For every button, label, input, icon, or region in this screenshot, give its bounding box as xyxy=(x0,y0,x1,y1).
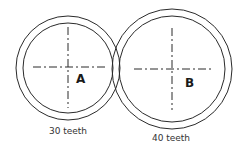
gear-a-caption: 30 teeth xyxy=(49,127,87,136)
gear-b-label: B xyxy=(185,77,194,89)
gear-a xyxy=(16,16,120,120)
gear-a-label: A xyxy=(76,73,85,85)
gear-b xyxy=(112,9,232,129)
gear-a-inner-circle xyxy=(23,23,113,113)
gear-b-caption: 40 teeth xyxy=(152,134,190,143)
gear-diagram: A B 30 teeth 40 teeth xyxy=(0,0,243,152)
gear-drawing xyxy=(0,0,243,152)
